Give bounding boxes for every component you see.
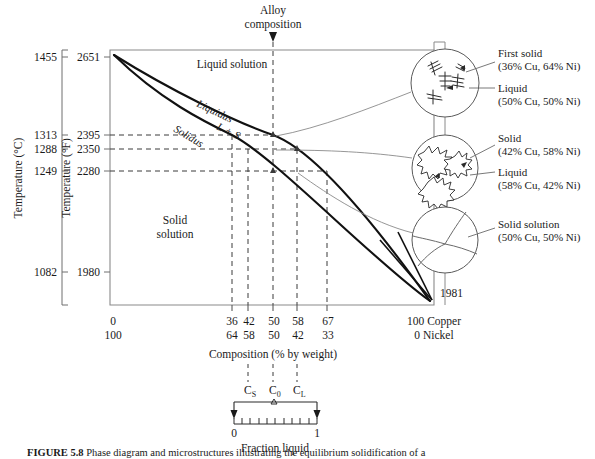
phase-boundary-curves — [114, 55, 430, 301]
figure-page: 1455 1313 1288 1249 1082 Temperature (°C… — [0, 0, 595, 459]
fahrenheit-tick-0: 2651 — [77, 51, 100, 63]
fraction-scale-left: 0 — [231, 427, 237, 439]
celsius-tick-3: 1249 — [34, 165, 57, 177]
x-tick-top-0: 36 — [226, 315, 238, 327]
liquidus-curve — [114, 55, 430, 301]
x-tick-top-1: 42 — [243, 315, 255, 327]
alloy-composition-line1: Alloy — [260, 4, 286, 17]
solid-region-label-line2: solution — [156, 228, 193, 240]
celsius-tick-0: 1455 — [34, 51, 57, 63]
fahrenheit-axis: 2651 2395 2350 2280 1980 Temperature (°F… — [60, 51, 110, 278]
solidus-curve — [114, 55, 430, 301]
x-right-top: 100 Copper — [407, 315, 461, 328]
leader-to-circle-1 — [276, 92, 411, 136]
callout-4-title: Solid solution — [498, 218, 560, 230]
composition-axis-ticks — [232, 305, 327, 311]
solidus-label: Solidus — [172, 122, 206, 149]
celsius-tick-4: 1082 — [34, 266, 57, 278]
x-tick-top-2: 50 — [268, 315, 280, 327]
alloy-composition-arrow — [269, 32, 277, 42]
x-tick-bottom-1: 58 — [243, 329, 255, 341]
two-phase-label: L + S — [214, 120, 242, 142]
x-tick-bottom-3: 42 — [292, 329, 304, 341]
plot-frame — [110, 50, 434, 305]
figure-caption-label: FIGURE 5.8 — [27, 447, 84, 458]
x-left-top: 0 — [110, 315, 116, 327]
composition-axis-labels: 0 100 36 42 50 58 67 64 58 50 42 33 100 … — [104, 315, 461, 361]
x-left-bottom: 100 — [104, 329, 122, 341]
alloy-composition-line2: composition — [245, 18, 302, 31]
microstructure-circle-2 — [412, 135, 478, 209]
callout-2-detail: (42% Cu, 58% Ni) — [498, 145, 581, 158]
callout-2-title: Solid — [498, 132, 522, 144]
microstructure-circle-3 — [412, 207, 478, 273]
solid-region-label-line1: Solid — [163, 214, 188, 226]
figure-caption: FIGURE 5.8 Phase diagram and microstruct… — [27, 447, 572, 459]
x-tick-top-4: 67 — [322, 315, 334, 327]
x-tick-bottom-4: 33 — [322, 329, 334, 341]
celsius-tick-1: 1313 — [34, 129, 57, 141]
callout-texts: First solid (36% Cu, 64% Ni) Liquid (50%… — [498, 47, 581, 244]
callout-3-detail: (58% Cu, 42% Ni) — [498, 179, 581, 192]
x-tick-bottom-2: 50 — [268, 329, 280, 341]
fahrenheit-tick-3: 2280 — [77, 165, 100, 177]
x-tick-bottom-0: 64 — [226, 329, 238, 341]
fahrenheit-tick-2: 2350 — [77, 143, 100, 155]
microstructure-circle-1 — [411, 49, 479, 117]
callout-0-detail: (36% Cu, 64% Ni) — [498, 60, 581, 73]
lever-arrow-left — [231, 410, 238, 419]
celsius-tick-2: 1288 — [34, 143, 57, 155]
x-right-bottom: 0 Nickel — [414, 329, 453, 341]
fraction-scale-right: 1 — [314, 427, 320, 439]
alloy-composition-annotation: Alloy composition — [245, 4, 302, 42]
lever-label-cs: CS — [244, 384, 256, 399]
composition-axis-title: Composition (% by weight) — [209, 348, 337, 361]
corner-temperature-value: 1981 — [440, 287, 463, 299]
callout-0-title: First solid — [498, 47, 543, 59]
celsius-axis-title: Temperature (°C) — [12, 137, 25, 218]
fahrenheit-axis-title: Temperature (°F) — [60, 138, 73, 218]
fahrenheit-tick-1: 2395 — [77, 129, 100, 141]
phase-diagram-figure: 1455 1313 1288 1249 1082 Temperature (°C… — [0, 0, 595, 459]
x-tick-top-3: 58 — [292, 315, 304, 327]
liquid-region-label: Liquid solution — [197, 58, 268, 71]
fahrenheit-tick-4: 1980 — [77, 266, 100, 278]
leader-to-circle-2 — [276, 150, 412, 158]
lever-label-c0: C0 — [269, 384, 281, 399]
figure-caption-body: Phase diagram and microstructures illust… — [86, 447, 425, 458]
lever-arrow-right — [314, 410, 321, 419]
callout-1-title: Liquid — [498, 82, 528, 94]
callout-4-detail: (50% Cu, 50% Ni) — [498, 231, 581, 244]
liquidus-label: Liquidus — [194, 97, 235, 125]
callout-1-detail: (50% Cu, 50% Ni) — [498, 95, 581, 108]
fraction-liquid-scale — [234, 418, 317, 424]
callout-3-title: Liquid — [498, 166, 528, 178]
lever-label-cl: CL — [293, 384, 306, 399]
lever-rule-section: CS C0 CL — [231, 364, 321, 455]
